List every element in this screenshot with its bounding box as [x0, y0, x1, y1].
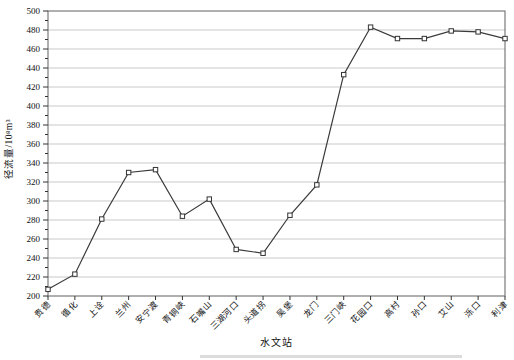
y-axis-title: 径流量/10⁸m³ — [1, 79, 15, 219]
y-tick-label: 420 — [27, 82, 41, 92]
x-tick-label: 孙口 — [409, 299, 429, 319]
x-tick-label: 花园口 — [349, 299, 375, 325]
x-tick-label: 三门峡 — [322, 299, 348, 325]
cropped-caption-artifact — [200, 355, 462, 358]
data-point-marker — [395, 36, 399, 40]
y-tick-label: 480 — [27, 25, 41, 35]
y-tick-label: 380 — [27, 120, 41, 130]
data-point-marker — [422, 36, 426, 40]
y-tick-label: 300 — [27, 196, 41, 206]
y-tick-label: 240 — [27, 253, 41, 263]
data-point-marker — [368, 25, 372, 29]
x-tick-label: 利津 — [490, 299, 510, 319]
plot-frame — [48, 11, 505, 296]
x-tick-label: 贵德 — [33, 299, 53, 319]
y-tick-label: 280 — [27, 215, 41, 225]
data-point-marker — [342, 72, 346, 76]
x-tick-label: 上诠 — [86, 299, 106, 319]
y-tick-label: 500 — [27, 6, 41, 16]
x-tick-label: 石嘴山 — [188, 299, 214, 325]
data-line — [48, 27, 505, 289]
data-point-marker — [100, 217, 104, 221]
data-point-marker — [126, 170, 130, 174]
plot-area: 2002202402602803003203403603804004204404… — [0, 0, 514, 360]
x-tick-label: 兰州 — [113, 299, 133, 319]
x-tick-label: 安宁渡 — [134, 299, 160, 325]
y-tick-label: 200 — [27, 291, 41, 301]
data-point-marker — [153, 167, 157, 171]
y-tick-label: 460 — [27, 44, 41, 54]
x-tick-label: 头道拐 — [241, 299, 267, 325]
x-tick-label: 循化 — [59, 299, 79, 319]
y-tick-label: 320 — [27, 177, 41, 187]
data-point-marker — [288, 213, 292, 217]
x-tick-label: 吴堡 — [275, 299, 295, 319]
y-tick-label: 260 — [27, 234, 41, 244]
x-tick-label: 青铜峡 — [161, 299, 187, 325]
x-tick-label: 龙门 — [301, 299, 321, 319]
y-tick-label: 360 — [27, 139, 41, 149]
y-tick-label: 220 — [27, 272, 41, 282]
x-axis-title: 水文站 — [48, 334, 505, 349]
x-tick-label: 艾山 — [436, 299, 456, 319]
y-tick-label: 340 — [27, 158, 41, 168]
data-point-marker — [207, 197, 211, 201]
data-point-marker — [234, 247, 238, 251]
data-point-marker — [449, 29, 453, 33]
y-tick-label: 440 — [27, 63, 41, 73]
data-point-marker — [261, 251, 265, 255]
x-tick-label: 三湖河口 — [208, 299, 241, 332]
x-tick-label: 泺口 — [463, 299, 483, 319]
data-point-marker — [315, 183, 319, 187]
data-point-marker — [73, 272, 77, 276]
runoff-line-chart-figure: 2002202402602803003203403603804004204404… — [0, 0, 514, 360]
data-point-marker — [46, 287, 50, 291]
x-tick-label: 高村 — [382, 299, 402, 319]
data-point-marker — [503, 36, 507, 40]
data-point-marker — [180, 214, 184, 218]
data-point-marker — [476, 30, 480, 34]
y-tick-label: 400 — [27, 101, 41, 111]
